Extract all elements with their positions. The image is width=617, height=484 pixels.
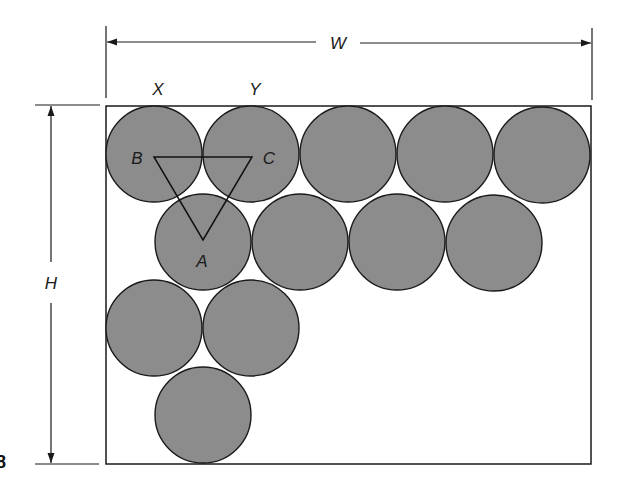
circle (106, 280, 202, 376)
height-dimension: H (35, 105, 100, 464)
circle-y (203, 106, 299, 202)
circle-x (106, 106, 202, 202)
circle-row-1 (106, 106, 590, 203)
margin-fragment: 8 (0, 452, 6, 472)
packing-diagram: W H X Y B C A 8 (0, 0, 617, 484)
circle-x-label: X (151, 80, 164, 99)
vertex-c-label: C (263, 149, 276, 168)
circle (349, 194, 445, 290)
circle-y-label: Y (249, 80, 262, 99)
width-label: W (330, 34, 348, 53)
circle (300, 106, 396, 202)
circle (155, 367, 251, 463)
circle (252, 194, 348, 290)
vertex-b-label: B (131, 149, 142, 168)
vertex-a-label: A (195, 252, 207, 271)
circle-row-4 (155, 367, 251, 463)
height-label: H (45, 274, 58, 293)
circle (397, 106, 493, 202)
circle (203, 280, 299, 376)
circle (494, 107, 590, 203)
circle (446, 195, 542, 291)
width-dimension: W (106, 26, 592, 100)
circle-a (155, 194, 251, 290)
